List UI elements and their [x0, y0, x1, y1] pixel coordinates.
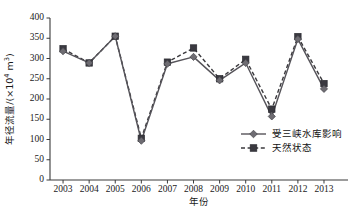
- y-tick-label: 100: [30, 134, 45, 144]
- y-tick-label: 200: [30, 93, 45, 103]
- x-tick-label: 2004: [80, 184, 99, 194]
- x-axis-title: 年份: [189, 196, 209, 207]
- y-tick-label: 250: [30, 73, 45, 83]
- x-tick-label: 2007: [158, 184, 177, 194]
- data-point-marker-square: [190, 45, 196, 51]
- legend-label-reservoir-affected: 受三峡水库影响: [272, 128, 342, 139]
- x-tick-label: 2012: [288, 184, 307, 194]
- svg-text:年径流量/(×104 m3): 年径流量/(×104 m3): [3, 53, 15, 144]
- y-tick-label: 150: [30, 113, 45, 123]
- y-tick-label: 50: [35, 154, 45, 164]
- x-tick-label: 2006: [132, 184, 151, 194]
- x-tick-label: 2009: [210, 184, 229, 194]
- y-axis-title: 年径流量/(×104 m3): [3, 53, 15, 144]
- y-tick-label: 350: [30, 32, 45, 42]
- x-tick-label: 2013: [314, 184, 333, 194]
- line-chart: 050100150200250300350400 200320042005200…: [0, 0, 359, 222]
- y-tick-label: 300: [30, 53, 45, 63]
- y-tick-label: 0: [39, 174, 44, 184]
- x-tick-label: 2010: [236, 184, 255, 194]
- data-point-marker-square: [269, 106, 275, 112]
- legend-label-natural-state: 天然状态: [272, 142, 312, 153]
- x-tick-label: 2008: [184, 184, 203, 194]
- x-tick-label: 2003: [54, 184, 73, 194]
- x-tick-label: 2011: [262, 184, 281, 194]
- x-axis-tick-labels: 2003200420052006200720082009201020112012…: [54, 184, 334, 194]
- y-tick-label: 400: [30, 12, 45, 22]
- chart-container: 050100150200250300350400 200320042005200…: [0, 0, 359, 222]
- legend-marker-square-icon: [250, 145, 257, 152]
- x-tick-label: 2005: [106, 184, 125, 194]
